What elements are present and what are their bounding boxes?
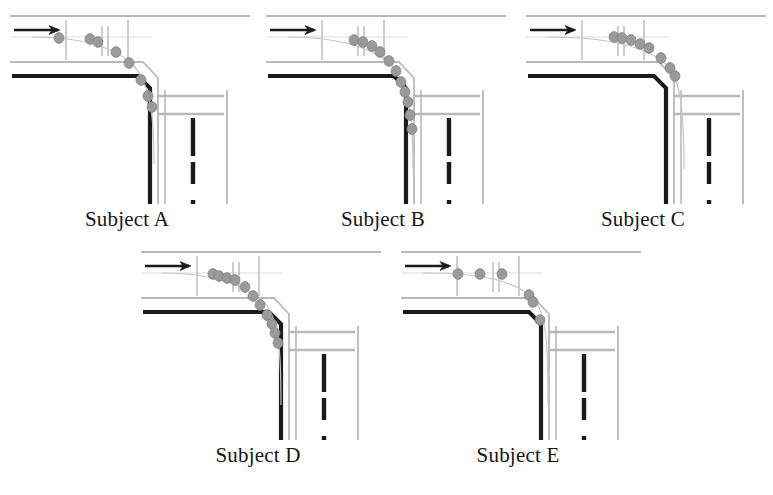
intersection-diagram-d	[133, 240, 383, 445]
figure-root: Subject ASubject BSubject CSubject DSubj…	[0, 0, 773, 495]
trajectory-dot-3	[497, 269, 507, 280]
trajectory-dot-7	[396, 77, 406, 88]
trajectory-dot-7	[143, 91, 153, 102]
inner-corner-solid-curb	[12, 76, 150, 204]
trajectory-dot-6	[136, 75, 146, 86]
trajectory-dot-2	[617, 33, 627, 44]
inner-corner-solid-curb	[528, 76, 666, 204]
panel-subject-e: Subject E	[393, 240, 643, 480]
trajectory-dot-4	[635, 39, 645, 50]
trajectory-dot-1	[54, 33, 64, 44]
panel-label-subject-b: Subject B	[258, 206, 508, 232]
trajectory-dot-6	[535, 315, 545, 326]
intersection-diagram-e	[393, 240, 643, 445]
trajectory-dot-1	[453, 269, 463, 280]
panel-subject-b: Subject B	[258, 4, 508, 244]
trajectory-dot-5	[384, 56, 394, 67]
trajectory-dot-1	[349, 35, 359, 46]
intersection-diagram-a	[2, 4, 252, 209]
trajectory-dot-3	[93, 37, 103, 48]
trajectory-dot-4	[375, 47, 385, 58]
trajectory-dot-4	[230, 275, 240, 286]
panel-label-subject-c: Subject C	[518, 206, 768, 232]
panel-label-subject-a: Subject A	[2, 206, 252, 232]
outer-corner-curb	[12, 62, 158, 204]
trajectory-dot-8	[147, 102, 157, 113]
intersection-diagram-b	[258, 4, 508, 209]
panel-subject-d: Subject D	[133, 240, 383, 480]
trajectory-path	[288, 37, 413, 169]
trajectory-dot-9	[403, 97, 413, 108]
inner-corner-solid-curb	[268, 76, 406, 204]
trajectory-dot-6	[656, 53, 666, 64]
inner-corner-solid-curb	[403, 312, 541, 440]
outer-corner-curb	[528, 62, 674, 204]
direction-of-travel-arrow	[405, 262, 451, 271]
trajectory-dots	[208, 269, 283, 349]
trajectory-dot-10	[405, 110, 415, 121]
intersection-diagram-c	[518, 4, 768, 209]
trajectory-dot-11	[407, 124, 417, 135]
panel-subject-a: Subject A	[2, 4, 252, 244]
direction-of-travel-arrow	[14, 26, 60, 35]
panel-label-subject-e: Subject E	[393, 442, 643, 468]
trajectory-dot-7	[255, 300, 265, 311]
trajectory-dot-10	[270, 328, 280, 339]
direction-of-travel-arrow	[530, 26, 576, 35]
trajectory-dot-4	[111, 47, 121, 58]
outer-corner-curb	[403, 298, 549, 440]
trajectory-path	[32, 37, 154, 164]
trajectory-dot-2	[475, 269, 485, 280]
trajectory-dot-5	[240, 282, 250, 293]
trajectory-dot-3	[626, 35, 636, 46]
inner-corner-solid-curb	[143, 312, 281, 440]
panel-label-subject-d: Subject D	[133, 442, 383, 468]
trajectory-dot-8	[670, 71, 680, 82]
trajectory-dot-6	[391, 66, 401, 77]
trajectory-dot-5	[124, 58, 134, 69]
panel-subject-c: Subject C	[518, 4, 768, 244]
trajectory-dot-5	[528, 297, 538, 308]
trajectory-dots	[54, 33, 157, 113]
direction-of-travel-arrow	[270, 26, 316, 35]
trajectory-dot-5	[644, 43, 654, 54]
trajectory-dot-2	[358, 37, 368, 48]
trajectory-dot-6	[248, 291, 258, 302]
trajectory-dot-8	[400, 87, 410, 98]
trajectory-dots	[349, 35, 417, 135]
trajectory-path	[163, 273, 281, 405]
outer-corner-curb	[268, 62, 414, 204]
trajectory-dot-11	[273, 338, 283, 349]
direction-of-travel-arrow	[145, 262, 191, 271]
